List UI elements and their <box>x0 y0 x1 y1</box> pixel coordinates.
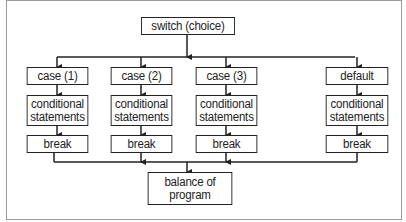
default-node: default <box>326 67 389 85</box>
default-statements-label: conditional statements <box>330 98 384 124</box>
case-1-label: case (1) <box>37 70 77 83</box>
case-3-break-label: break <box>213 138 241 151</box>
case-2-break-node: break <box>111 135 173 153</box>
case-2-statements-node: conditional statements <box>111 95 173 126</box>
balance-of-program-node: balance of program <box>148 172 233 205</box>
case-2-label: case (2) <box>121 70 161 83</box>
default-label: default <box>340 70 373 83</box>
case-3-statements-node: conditional statements <box>196 95 258 126</box>
case-1-statements-label: conditional statements <box>30 98 84 124</box>
case-2-statements-label: conditional statements <box>114 98 168 124</box>
case-2-break-label: break <box>128 138 156 151</box>
case-3-break-node: break <box>196 135 258 153</box>
balance-of-program-label: balance of program <box>164 176 215 202</box>
case-3-statements-label: conditional statements <box>199 98 253 124</box>
case-2-node: case (2) <box>111 67 173 85</box>
case-3-node: case (3) <box>196 67 258 85</box>
switch-node: switch (choice) <box>141 17 235 35</box>
case-1-node: case (1) <box>27 67 89 85</box>
switch-node-label: switch (choice) <box>151 20 224 33</box>
case-3-label: case (3) <box>206 70 246 83</box>
default-break-node: break <box>326 135 389 153</box>
default-break-label: break <box>343 138 371 151</box>
case-1-break-node: break <box>27 135 89 153</box>
case-1-break-label: break <box>44 138 72 151</box>
case-1-statements-node: conditional statements <box>27 95 89 126</box>
default-statements-node: conditional statements <box>326 95 389 126</box>
